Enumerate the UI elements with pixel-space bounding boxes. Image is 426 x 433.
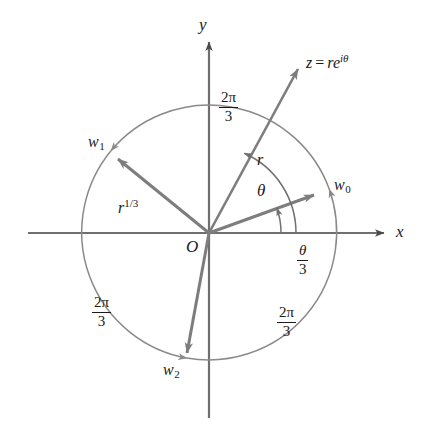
label-w2: w2 xyxy=(163,362,180,380)
vector-w0 xyxy=(209,195,314,233)
label-theta-over-three: θ 3 xyxy=(297,243,308,278)
complex-roots-figure: y x O z=reiθ w0 w1 w2 r r1/3 θ θ 3 2π 3 xyxy=(0,0,426,433)
label-r-cube-root-exponent: 1/3 xyxy=(124,197,138,209)
y-axis-label: y xyxy=(199,16,207,33)
angle-arc-theta xyxy=(244,153,296,233)
fraction-numerator: 2π xyxy=(219,90,238,108)
arc-label-top: 2π 3 xyxy=(219,90,238,125)
label-w0-base: w xyxy=(334,176,345,193)
label-r: r xyxy=(257,152,263,168)
label-z-exponent: iθ xyxy=(340,52,348,64)
label-w2-base: w xyxy=(163,361,174,378)
origin-label: O xyxy=(186,238,198,255)
label-theta: θ xyxy=(257,182,265,199)
x-axis-label: x xyxy=(396,223,404,240)
label-w0-subscript: 0 xyxy=(345,183,351,195)
fraction-two-pi-over-three-bottom-right: 2π 3 xyxy=(277,305,296,340)
fraction-numerator: 2π xyxy=(277,305,296,323)
fraction-numerator: 2π xyxy=(92,295,111,313)
diagram-canvas xyxy=(0,0,426,433)
fraction-denominator: 3 xyxy=(219,108,238,125)
label-w0: w0 xyxy=(334,177,351,195)
fraction-denominator: 3 xyxy=(297,261,308,278)
fraction-two-pi-over-three-bottom-left: 2π 3 xyxy=(92,295,111,330)
label-z: z=reiθ xyxy=(306,53,348,71)
label-r-cube-root: r1/3 xyxy=(118,198,138,216)
label-z-equals: = xyxy=(312,54,327,71)
label-z-base: re xyxy=(327,54,340,71)
fraction-numerator: θ xyxy=(297,243,308,261)
label-w1-base: w xyxy=(88,133,99,150)
vector-w1 xyxy=(118,159,209,233)
label-w1: w1 xyxy=(88,134,105,152)
arc-label-bottom-right: 2π 3 xyxy=(277,305,296,340)
fraction-theta-over-three: θ 3 xyxy=(297,243,308,278)
label-w2-subscript: 2 xyxy=(174,368,180,380)
label-w1-subscript: 1 xyxy=(99,140,105,152)
fraction-denominator: 3 xyxy=(277,323,296,340)
fraction-two-pi-over-three-top: 2π 3 xyxy=(219,90,238,125)
fraction-denominator: 3 xyxy=(92,313,111,330)
arc-label-bottom-left: 2π 3 xyxy=(92,295,111,330)
angle-arc-theta-over-3 xyxy=(277,208,281,233)
